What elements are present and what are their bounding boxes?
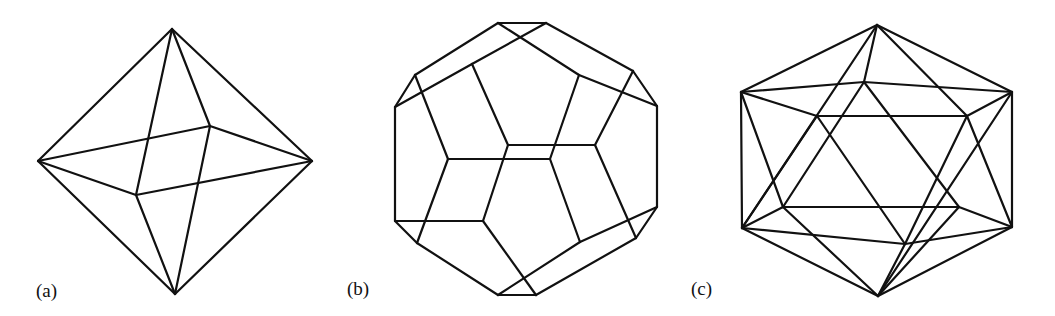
edge-L-BK — [38, 126, 210, 161]
edge-FUR-LR — [967, 116, 1012, 227]
panel-label-b: (b) — [347, 278, 369, 300]
edge-M-O — [395, 221, 417, 243]
edge-B-R — [175, 161, 312, 294]
edge-B-FR — [136, 195, 175, 294]
edge-LL-B — [742, 228, 878, 296]
icosahedron-drawing — [741, 25, 1012, 296]
dodecahedron-drawing — [395, 23, 657, 295]
edge-T-L — [38, 29, 172, 161]
panel-label-c: (c) — [691, 278, 712, 300]
edge-B-L — [38, 161, 175, 294]
octahedron-drawing — [38, 29, 312, 294]
edge-FR-L — [38, 161, 136, 195]
edge-A-H — [498, 23, 579, 75]
edge-FLR-B — [878, 207, 959, 296]
edge-B-BK — [175, 126, 210, 294]
edge-K-O — [417, 159, 448, 243]
edge-FLL-B — [783, 207, 878, 296]
edge-G-D — [395, 64, 472, 107]
edge-J-Q — [595, 145, 636, 238]
edge-UL-FLL — [741, 92, 783, 207]
edge-N-U — [483, 221, 536, 295]
edge-UL-FUL — [741, 92, 817, 116]
edge-G-I — [472, 64, 508, 145]
edge-BK-R — [210, 126, 312, 161]
edge-E-J — [595, 71, 633, 145]
edge-R-S — [498, 242, 580, 295]
edge-A-C — [415, 23, 498, 75]
edge-T-FR — [136, 29, 172, 195]
edge-BU-FLR — [864, 82, 959, 207]
edge-UL-LL — [741, 92, 742, 228]
edge-T-FUR — [877, 25, 967, 116]
edge-LL-BL — [742, 228, 905, 244]
panel-label-a: (a) — [36, 280, 57, 302]
edge-BU-FLL — [783, 82, 864, 207]
edge-BU-UR — [864, 82, 1012, 92]
polyhedra-figure — [0, 0, 1055, 316]
edge-I-N — [483, 145, 508, 221]
edge-T-BK — [172, 29, 210, 126]
edge-O-S — [417, 243, 498, 295]
edge-FUR-BL — [905, 116, 967, 244]
edge-H-L — [550, 75, 579, 159]
edge-UR-B — [878, 92, 1012, 296]
edge-Bv-E — [546, 23, 633, 71]
edge-T-R — [172, 29, 312, 161]
edge-Q-U — [536, 238, 636, 295]
edge-L-R — [550, 159, 580, 242]
edge-FUL-BL — [817, 116, 905, 244]
edge-R-FR — [136, 161, 312, 195]
edge-T-UR — [877, 25, 1012, 92]
